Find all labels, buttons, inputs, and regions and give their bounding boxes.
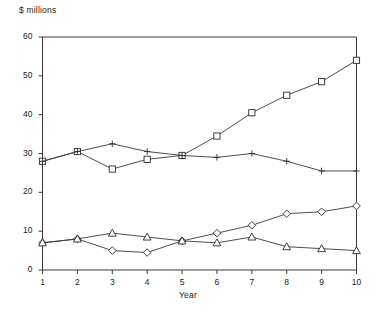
plot-frame-group	[43, 37, 357, 270]
marker-diamond	[248, 222, 256, 230]
y-tick-label: 0	[7, 264, 33, 274]
series-line-square	[43, 60, 357, 169]
marker-plus	[353, 168, 359, 174]
x-tick-label: 10	[347, 277, 367, 287]
x-tick-label: 9	[312, 277, 332, 287]
data-series-group	[39, 57, 361, 256]
y-tick-label: 20	[7, 186, 33, 196]
x-tick-label: 1	[33, 277, 53, 287]
series-triangle	[39, 229, 361, 253]
x-tick-label: 7	[242, 277, 262, 287]
marker-diamond	[318, 208, 326, 216]
marker-plus	[318, 168, 324, 174]
marker-plus	[284, 158, 290, 164]
marker-square	[319, 79, 325, 85]
marker-square	[284, 92, 290, 98]
plot-canvas	[0, 0, 376, 314]
x-tick-label: 4	[137, 277, 157, 287]
y-tick-label: 50	[7, 70, 33, 80]
marker-plus	[109, 141, 115, 147]
series-line-triangle	[43, 233, 357, 250]
marker-square	[214, 133, 220, 139]
x-tick-label: 5	[172, 277, 192, 287]
series-square	[39, 57, 359, 172]
x-axis-title: Year	[0, 290, 376, 300]
x-tick-label: 3	[102, 277, 122, 287]
marker-plus	[249, 150, 255, 156]
series-line-diamond	[43, 206, 357, 253]
x-tick-label: 6	[207, 277, 227, 287]
y-tick-label: 60	[7, 31, 33, 41]
marker-square	[144, 156, 150, 162]
marker-square	[249, 110, 255, 116]
marker-triangle	[108, 229, 116, 236]
marker-diamond	[213, 229, 221, 237]
marker-diamond	[353, 202, 361, 210]
x-tick-label: 8	[277, 277, 297, 287]
marker-plus	[144, 148, 150, 154]
marker-square	[353, 57, 359, 63]
x-tick-label: 2	[67, 277, 87, 287]
marker-square	[109, 166, 115, 172]
y-tick-label: 40	[7, 109, 33, 119]
line-chart: $ millions 6050403020100 12345678910 Yea…	[0, 0, 376, 314]
marker-plus	[214, 154, 220, 160]
marker-diamond	[108, 247, 116, 255]
marker-diamond	[143, 249, 151, 257]
marker-diamond	[283, 210, 291, 218]
y-tick-label: 10	[7, 225, 33, 235]
marker-triangle	[248, 233, 256, 240]
y-tick-label: 30	[7, 148, 33, 158]
